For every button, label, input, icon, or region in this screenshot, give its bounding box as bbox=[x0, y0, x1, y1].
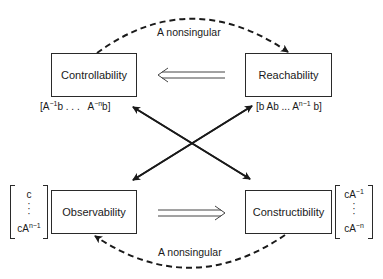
node-label: Observability bbox=[62, 206, 126, 218]
node-constructibility: Constructibility bbox=[245, 190, 332, 234]
node-label: Reachability bbox=[259, 69, 319, 81]
edge-label-top: A nonsingular bbox=[157, 26, 221, 38]
edge-label-bottom: A nonsingular bbox=[158, 246, 222, 258]
node-label: Constructibility bbox=[253, 206, 325, 218]
constructibility-matrix: cA−1 ··· cA−n bbox=[335, 185, 373, 239]
double-arrow-left bbox=[158, 68, 225, 82]
observability-matrix: c ··· cAn−1 bbox=[10, 185, 48, 239]
node-reachability: Reachability bbox=[245, 53, 332, 97]
double-arrow-right bbox=[158, 206, 225, 220]
controllability-matrix: [A−1b . . . A−nb] bbox=[40, 101, 110, 112]
node-controllability: Controllability bbox=[51, 53, 137, 97]
reachability-matrix: [b Ab ... An−1 b] bbox=[256, 101, 322, 112]
diagram-edges bbox=[0, 0, 383, 279]
node-label: Controllability bbox=[61, 69, 127, 81]
node-observability: Observability bbox=[51, 190, 137, 234]
